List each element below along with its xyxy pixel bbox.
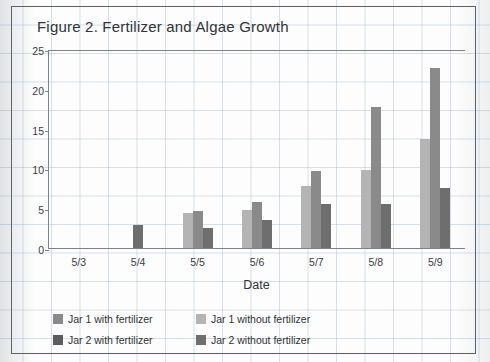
bar-group: 5/5	[168, 51, 227, 248]
x-tick-label: 5/3	[71, 256, 86, 268]
bar	[371, 107, 381, 248]
bar	[420, 139, 430, 248]
bar	[440, 188, 450, 248]
bar	[193, 211, 203, 248]
bar	[301, 186, 311, 248]
bar	[262, 220, 272, 248]
x-tick-label: 5/8	[369, 256, 384, 268]
y-tick-label: 5	[38, 204, 44, 216]
x-axis-label: Date	[48, 278, 465, 292]
legend-swatch	[53, 335, 63, 345]
chart-legend: Jar 1 with fertilizerJar 1 without ferti…	[53, 308, 356, 350]
legend-item: Jar 2 without fertilizer	[196, 334, 356, 346]
bar	[203, 228, 213, 248]
x-tick-label: 5/6	[250, 256, 265, 268]
plot-area: 2520151050 5/35/45/55/65/75/85/9	[48, 50, 465, 249]
y-tick-label: 0	[38, 244, 44, 256]
x-tick-label: 5/4	[131, 256, 146, 268]
bar-group: 5/4	[108, 51, 167, 248]
y-tick-label: 25	[32, 45, 44, 57]
bar	[381, 204, 391, 248]
bar-group: 5/9	[406, 51, 465, 248]
y-tick-label: 20	[32, 85, 44, 97]
y-tick-label: 15	[32, 125, 44, 137]
legend-item: Jar 1 with fertilizer	[53, 313, 196, 325]
bar	[242, 210, 252, 248]
bar	[311, 171, 321, 248]
legend-label: Jar 1 with fertilizer	[68, 313, 153, 325]
legend-swatch	[53, 314, 63, 324]
legend-label: Jar 2 with fertilizer	[68, 334, 153, 346]
legend-item: Jar 1 without fertilizer	[196, 313, 356, 325]
bar	[321, 204, 331, 248]
bar	[183, 213, 193, 248]
bar	[430, 68, 440, 248]
legend-swatch	[196, 314, 206, 324]
x-tick-label: 5/9	[428, 256, 443, 268]
y-tick-label: 10	[32, 164, 44, 176]
bar-group: 5/8	[346, 51, 405, 248]
bar	[361, 170, 371, 248]
legend-label: Jar 1 without fertilizer	[211, 313, 310, 325]
bar-group: 5/7	[287, 51, 346, 248]
x-tick-label: 5/7	[309, 256, 324, 268]
bar-groups: 5/35/45/55/65/75/85/9	[49, 51, 465, 248]
legend-item: Jar 2 with fertilizer	[53, 334, 196, 346]
legend-swatch	[196, 335, 206, 345]
legend-label: Jar 2 without fertilizer	[211, 334, 310, 346]
bar	[133, 225, 143, 248]
bar	[252, 202, 262, 248]
chart-title: Figure 2. Fertilizer and Algae Growth	[37, 18, 289, 35]
y-tick-mark	[45, 250, 49, 251]
x-tick-label: 5/5	[190, 256, 205, 268]
bar-group: 5/3	[49, 51, 108, 248]
bar-group: 5/6	[227, 51, 286, 248]
